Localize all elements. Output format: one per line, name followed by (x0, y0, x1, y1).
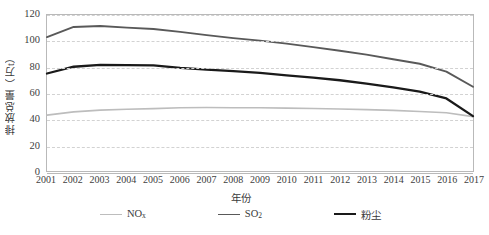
y-tick-80: 80 (2, 62, 40, 72)
gridline-100 (47, 41, 473, 42)
gridline-80 (47, 68, 473, 69)
legend-item-粉尘[interactable]: 粉尘 (334, 207, 381, 222)
x-axis-tick-labels: 2001200220032004200520062007200820092010… (46, 174, 474, 188)
series-line-SO2 (47, 26, 473, 87)
y-axis-tick-labels: 020406080100120 (0, 14, 42, 172)
y-tick-20: 20 (2, 141, 40, 151)
y-tick-40: 40 (2, 114, 40, 124)
chart-legend: NOxSO2粉尘 (0, 205, 481, 223)
legend-item-NOx[interactable]: NOx (100, 208, 146, 220)
gridline-20 (47, 147, 473, 148)
x-axis-title: 年份 (0, 190, 481, 205)
y-tick-100: 100 (2, 35, 40, 45)
legend-item-SO2[interactable]: SO2 (218, 208, 262, 220)
legend-label-SO2: SO2 (245, 208, 262, 220)
gridline-40 (47, 120, 473, 121)
legend-swatch-SO2 (218, 214, 240, 215)
plot-area (46, 14, 474, 172)
y-tick-120: 120 (2, 9, 40, 19)
legend-swatch-粉尘 (334, 213, 356, 215)
legend-label-NOx: NOx (127, 208, 146, 220)
gridline-60 (47, 94, 473, 95)
series-line-NOx (47, 108, 473, 117)
gridline-120 (47, 15, 473, 16)
x-tick-2017: 2017 (454, 174, 489, 186)
legend-swatch-NOx (100, 214, 122, 215)
legend-label-粉尘: 粉尘 (361, 207, 381, 222)
y-tick-60: 60 (2, 88, 40, 98)
